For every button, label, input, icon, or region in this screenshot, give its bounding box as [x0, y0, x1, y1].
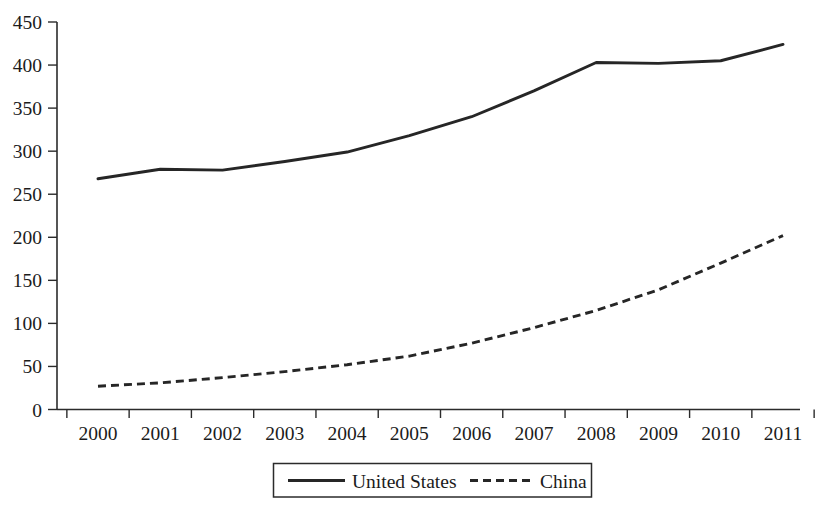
x-tick-label: 2008 — [577, 423, 616, 444]
x-tick-label: 2000 — [79, 423, 118, 444]
x-tick-label: 2005 — [390, 423, 429, 444]
x-tick-label: 2011 — [764, 423, 802, 444]
y-tick-label: 100 — [13, 313, 42, 334]
y-tick-label: 150 — [13, 270, 42, 291]
chart-canvas: 050100150200250300350400450 200020012002… — [0, 0, 821, 510]
y-tick-marks — [48, 22, 57, 410]
legend-label-united-states: United States — [352, 471, 457, 492]
series-line-china — [98, 236, 783, 387]
series-line-united-states — [98, 44, 783, 178]
x-tick-label: 2001 — [141, 423, 180, 444]
y-tick-label: 350 — [13, 98, 42, 119]
x-axis-group: 2000200120022003200420052006200720082009… — [57, 410, 814, 445]
x-tick-labels: 2000200120022003200420052006200720082009… — [79, 423, 803, 444]
y-tick-label: 200 — [13, 227, 42, 248]
y-tick-label: 300 — [13, 141, 42, 162]
y-tick-label: 250 — [13, 184, 42, 205]
y-axis-group: 050100150200250300350400450 — [13, 12, 57, 421]
y-tick-label: 400 — [13, 55, 42, 76]
x-tick-label: 2007 — [514, 423, 553, 444]
x-tick-label: 2004 — [328, 423, 367, 444]
plot-area — [98, 44, 783, 386]
y-tick-label: 450 — [13, 12, 42, 33]
x-tick-label: 2003 — [265, 423, 304, 444]
y-tick-label: 0 — [32, 400, 42, 421]
y-tick-labels: 050100150200250300350400450 — [13, 12, 42, 421]
x-tick-label: 2010 — [701, 423, 740, 444]
line-chart: 050100150200250300350400450 200020012002… — [0, 0, 821, 510]
x-tick-label: 2009 — [639, 423, 678, 444]
legend: United States China — [274, 464, 592, 498]
legend-label-china: China — [540, 471, 587, 492]
x-tick-marks — [67, 410, 814, 419]
x-tick-label: 2006 — [452, 423, 491, 444]
x-tick-label: 2002 — [203, 423, 242, 444]
y-tick-label: 50 — [23, 356, 43, 377]
